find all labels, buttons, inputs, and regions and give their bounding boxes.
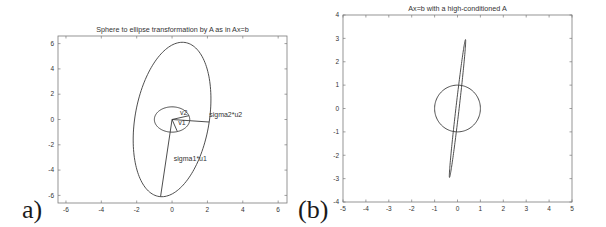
- annotation-label: v2: [180, 109, 188, 116]
- x-tick-label: -2: [134, 206, 140, 213]
- chart-title: Sphere to ellipse transformation by A as…: [96, 25, 248, 34]
- y-tick-label: -4: [48, 166, 54, 173]
- y-tick-label: 4: [335, 11, 339, 18]
- x-tick-label: -4: [363, 205, 369, 212]
- y-tick-label: -3: [333, 175, 339, 182]
- x-tick-label: -4: [98, 206, 104, 213]
- x-tick-label: 6: [276, 206, 280, 213]
- annotation-label: sigma2*u2: [209, 111, 242, 119]
- x-tick-label: 2: [206, 206, 210, 213]
- x-tick-label: 1: [479, 205, 483, 212]
- y-tick-label: -2: [48, 141, 54, 148]
- y-tick-label: 6: [50, 40, 54, 47]
- y-tick-label: -2: [333, 152, 339, 159]
- x-tick-label: 5: [570, 205, 574, 212]
- y-tick-label: 0: [50, 116, 54, 123]
- x-tick-label: 4: [547, 205, 551, 212]
- panel-label-b: (b): [298, 197, 328, 223]
- y-tick-label: -4: [333, 198, 339, 205]
- y-tick-label: 2: [50, 90, 54, 97]
- chart-title: Ax=b with a high-conditioned A: [408, 4, 507, 13]
- y-tick-label: 2: [335, 58, 339, 65]
- x-tick-label: -5: [340, 205, 346, 212]
- panel-label-a: a): [22, 197, 42, 223]
- annotation-label: sigma1*u1: [174, 155, 207, 163]
- annotation-label: v1: [178, 119, 186, 126]
- x-tick-label: -6: [63, 206, 69, 213]
- x-tick-label: -3: [386, 205, 392, 212]
- x-tick-label: -2: [409, 205, 415, 212]
- chart-panel-0: Sphere to ellipse transformation by A as…: [48, 25, 287, 213]
- figure: Sphere to ellipse transformation by A as…: [0, 0, 606, 227]
- x-tick-label: -1: [432, 205, 438, 212]
- series-v1: [172, 120, 177, 132]
- y-tick-label: 1: [335, 81, 339, 88]
- x-tick-label: 0: [170, 206, 174, 213]
- x-tick-label: 2: [501, 205, 505, 212]
- series-transformed-ellipse: [449, 40, 465, 178]
- y-tick-label: 0: [335, 105, 339, 112]
- axes-box: [343, 15, 572, 202]
- y-tick-label: -1: [333, 128, 339, 135]
- y-tick-label: 4: [50, 65, 54, 72]
- x-tick-label: 4: [241, 206, 245, 213]
- x-tick-label: 3: [524, 205, 528, 212]
- y-tick-label: -6: [48, 192, 54, 199]
- x-tick-label: 0: [456, 205, 460, 212]
- y-tick-label: 3: [335, 35, 339, 42]
- chart-panel-1: Ax=b with a high-conditioned A-5-4-3-2-1…: [333, 4, 574, 212]
